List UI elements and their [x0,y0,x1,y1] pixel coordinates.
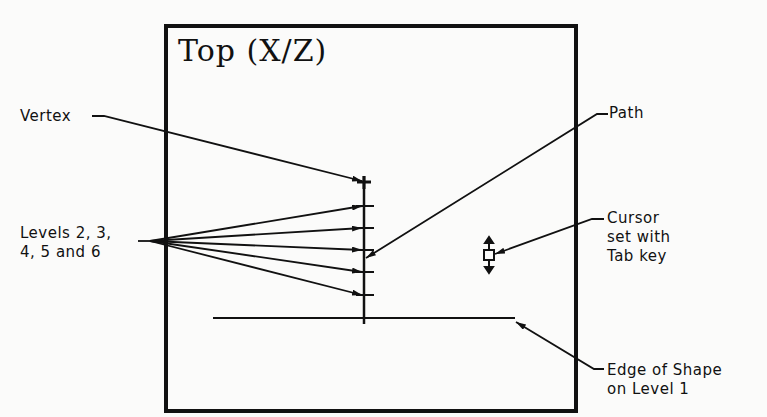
label-levels: Levels 2, 3, 4, 5 and 6 [20,224,112,262]
vertex-leader [92,116,362,181]
view-title: Top (X/Z) [178,33,327,68]
label-cursor-line3: Tab key [607,247,671,266]
label-cursor-line2: set with [607,228,671,247]
label-edge: Edge of Shape on Level 1 [607,361,722,399]
label-edge-line2: on Level 1 [607,380,722,399]
cursor-leader [495,219,604,254]
edge-leader [516,322,604,369]
levels-leaders [138,206,362,295]
label-levels-line2: 4, 5 and 6 [20,243,112,262]
viewport-frame [166,26,576,411]
label-edge-line1: Edge of Shape [607,361,722,380]
cursor-icon [484,237,494,273]
label-cursor-line1: Cursor [607,209,671,228]
label-levels-line1: Levels 2, 3, [20,224,112,243]
vertex-marker [357,176,371,189]
label-cursor: Cursor set with Tab key [607,209,671,266]
label-path: Path [609,104,644,123]
label-vertex: Vertex [20,107,71,126]
path-leader [366,114,608,258]
